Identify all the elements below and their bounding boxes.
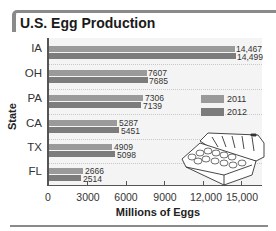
legend-swatch-2012 <box>201 108 224 116</box>
x-tick-label: 0 <box>45 191 51 203</box>
bottom-divider <box>10 225 268 227</box>
bar-fl-2011 <box>49 168 83 174</box>
bar-pa-2012 <box>49 102 141 108</box>
value-label: 5098 <box>117 150 136 160</box>
bar-ca-2012 <box>49 127 119 133</box>
x-tick-label: 15,000 <box>226 191 258 203</box>
x-tick <box>126 181 127 185</box>
category-label-pa: PA <box>28 92 43 104</box>
legend-swatch-2011 <box>201 95 224 103</box>
bar-ca-2011 <box>49 120 117 126</box>
bar-oh-2012 <box>49 77 148 83</box>
bar-oh-2011 <box>49 70 147 76</box>
bar-tx-2011 <box>49 144 112 150</box>
x-tick-label: 9000 <box>153 191 176 203</box>
legend-label-2012: 2012 <box>227 107 247 117</box>
value-label: 7685 <box>149 76 168 86</box>
egg-carton-icon <box>178 131 266 187</box>
y-axis-title: State <box>6 103 18 130</box>
bar-ia-2012 <box>49 53 236 59</box>
bar-tx-2012 <box>49 151 115 157</box>
value-label: 5451 <box>121 126 140 136</box>
category-label-oh: OH <box>25 67 42 79</box>
bar-fl-2012 <box>49 175 81 181</box>
x-tick <box>87 181 88 185</box>
category-label-ca: CA <box>26 117 42 129</box>
x-axis-title: Millions of Eggs <box>0 206 276 218</box>
category-label-tx: TX <box>27 141 42 153</box>
bar-ia-2011 <box>49 46 235 52</box>
value-label: 2514 <box>83 174 102 184</box>
x-tick-label: 3000 <box>76 191 99 203</box>
chart-title: U.S. Egg Production <box>20 15 155 31</box>
x-tick <box>164 181 165 185</box>
value-label: 14,499 <box>237 52 263 62</box>
value-label: 7139 <box>143 101 162 111</box>
x-tick-label: 6000 <box>114 191 137 203</box>
category-label-ia: IA <box>31 42 42 54</box>
x-tick-label: 12,000 <box>190 191 222 203</box>
legend-label-2011: 2011 <box>227 94 246 104</box>
gridline <box>48 64 262 65</box>
y-axis-line <box>47 38 49 186</box>
bar-pa-2011 <box>49 95 143 101</box>
gridline <box>48 89 262 90</box>
category-label-fl: FL <box>29 165 42 177</box>
